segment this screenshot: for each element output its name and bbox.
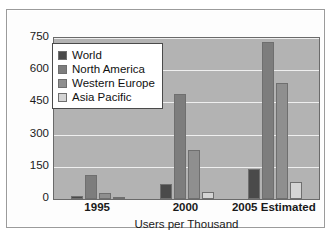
bar: [113, 197, 125, 199]
y-axis-tick-label: 150: [9, 160, 49, 171]
legend-item-label: Western Europe: [72, 77, 155, 89]
legend-item: Asia Pacific: [58, 90, 155, 104]
bar: [188, 150, 200, 199]
bar: [160, 184, 172, 199]
legend-item-label: North America: [72, 63, 145, 75]
gridline: [54, 38, 319, 39]
legend-swatch-icon: [58, 93, 67, 102]
legend-item: World: [58, 48, 155, 62]
bar: [174, 94, 186, 199]
bar: [85, 175, 97, 199]
legend-item-label: World: [72, 49, 102, 61]
bar: [276, 83, 288, 199]
x-axis-tick-label: 2000: [141, 201, 229, 213]
legend-swatch-icon: [58, 65, 67, 74]
chart-legend: WorldNorth AmericaWestern EuropeAsia Pac…: [52, 43, 163, 109]
x-axis-tick-label: 2005 Estimated: [230, 201, 318, 213]
bar: [202, 192, 214, 200]
y-axis-tick-label: 450: [9, 95, 49, 106]
x-axis-title: Users per Thousand: [53, 218, 320, 230]
legend-item: North America: [58, 62, 155, 76]
y-axis-tick-label: 750: [9, 31, 49, 42]
y-axis-tick-label: 600: [9, 63, 49, 74]
legend-item-label: Asia Pacific: [72, 91, 131, 103]
y-axis-tick-label: 300: [9, 128, 49, 139]
bar: [290, 182, 302, 199]
legend-swatch-icon: [58, 79, 67, 88]
x-axis-tick-labels: 199520002005 Estimated: [53, 201, 320, 217]
chart-frame: 0150300450600750 199520002005 Estimated …: [6, 9, 325, 228]
chart-figure: 0150300450600750 199520002005 Estimated …: [0, 0, 333, 237]
y-axis-tick-labels: 0150300450600750: [7, 37, 49, 200]
bar: [99, 193, 111, 199]
legend-item: Western Europe: [58, 76, 155, 90]
bar: [262, 42, 274, 199]
legend-swatch-icon: [58, 51, 67, 60]
x-axis-tick-label: 1995: [53, 201, 141, 213]
bar: [248, 169, 260, 199]
y-axis-tick-label: 0: [9, 192, 49, 203]
bar: [71, 196, 83, 199]
